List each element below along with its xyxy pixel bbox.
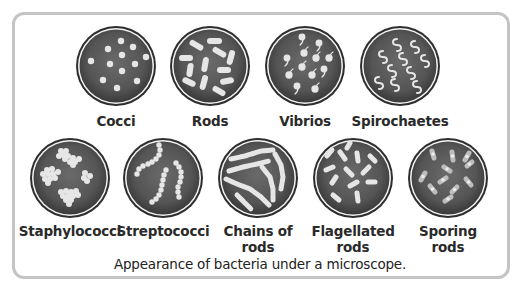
label-sporing-rods-line1: Sporing bbox=[393, 224, 503, 239]
staphylococci-dish bbox=[29, 137, 111, 219]
streptococci-icon bbox=[122, 137, 204, 219]
sporing-rods-dish bbox=[407, 137, 489, 219]
streptococci-dish bbox=[122, 137, 204, 219]
rods-dish bbox=[169, 25, 251, 107]
label-streptococci: Streptococci bbox=[108, 224, 218, 239]
vibrios-dish bbox=[264, 25, 346, 107]
spirochaetes-dish bbox=[359, 25, 441, 107]
flagellated-rods-dish bbox=[312, 137, 394, 219]
chains-of-rods-dish bbox=[217, 137, 299, 219]
label-flagellated-rods-line2: rods bbox=[298, 240, 408, 255]
chains-of-rods-icon bbox=[217, 137, 299, 219]
flagellated-rods-icon bbox=[312, 137, 394, 219]
rods-icon bbox=[169, 25, 251, 107]
staphylococci-icon bbox=[29, 137, 111, 219]
vibrios-icon bbox=[264, 25, 346, 107]
label-rods: Rods bbox=[155, 114, 265, 129]
label-chains-of-rods-line2: rods bbox=[203, 240, 313, 255]
label-chains-of-rods-line1: Chains of bbox=[203, 224, 313, 239]
spirochaetes-icon bbox=[359, 25, 441, 107]
figure-caption: Appearance of bacteria under a microscop… bbox=[0, 256, 520, 272]
label-vibrios: Vibrios bbox=[250, 114, 360, 129]
cocci-dish bbox=[75, 25, 157, 107]
label-flagellated-rods-line1: Flagellated bbox=[298, 224, 408, 239]
cocci-icon bbox=[75, 25, 157, 107]
sporing-rods-icon bbox=[407, 137, 489, 219]
label-sporing-rods-line2: rods bbox=[393, 240, 503, 255]
label-spirochaetes: Spirochaetes bbox=[345, 114, 455, 129]
